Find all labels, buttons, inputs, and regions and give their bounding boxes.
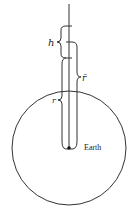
label-h: h	[48, 37, 54, 48]
r-brace	[58, 58, 68, 149]
label-earth: Earth	[84, 143, 101, 152]
h-brace	[57, 26, 66, 58]
label-r-bar: r̄	[82, 73, 87, 83]
label-r: r	[52, 96, 57, 105]
earth-diagram: h r̄ r Earth	[0, 0, 136, 219]
